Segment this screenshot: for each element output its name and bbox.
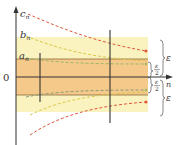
- half-epsilon-upper-num: ε: [155, 62, 158, 69]
- epsilon-bracket-lower: [160, 80, 165, 116]
- x-axis-label: n: [166, 80, 171, 89]
- half-epsilon-lower-num: ε: [155, 78, 158, 85]
- half-epsilon-upper-den: 2: [155, 69, 159, 76]
- epsilon-bracket-upper: [160, 40, 165, 76]
- c-curve-upper-end: [145, 50, 148, 53]
- epsilon-upper-label: ε: [166, 53, 171, 63]
- a-curve-lower-end: [145, 89, 148, 92]
- convergence-diagram: cn bn an 0 n ε 2 ε 2 ε ε: [0, 0, 179, 145]
- x-axis-arrow-icon: [166, 75, 173, 80]
- epsilon-lower-label: ε: [166, 93, 171, 103]
- b-sequence-label: bn: [20, 29, 30, 41]
- half-epsilon-bracket-lower: [148, 77, 153, 93]
- half-epsilon-bracket-upper: [148, 62, 153, 78]
- c-curve-lower-end: [145, 101, 148, 104]
- y-axis-arrow-icon: [14, 6, 19, 13]
- c-sequence-label: cn: [20, 8, 30, 20]
- origin-label: 0: [3, 72, 9, 83]
- a-curve-upper-end: [145, 63, 148, 66]
- half-epsilon-lower-den: 2: [155, 85, 159, 92]
